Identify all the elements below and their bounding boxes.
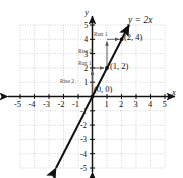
x-tick-label--2: -2 (58, 100, 65, 109)
point-origin (91, 95, 95, 99)
x-tick-label--1: -1 (72, 100, 79, 109)
y-tick-label-1: 1 (84, 78, 88, 87)
point-label-1-2: (1, 2) (110, 62, 128, 71)
y-tick-label--3: -3 (80, 135, 87, 144)
graph-canvas: y x y = 2x -5 -4 -3 -2 -1 1 2 3 4 5 5 4 … (0, 0, 183, 178)
point-label-2-4: (2, 4) (124, 33, 142, 42)
run-upper-label: Run 1 (94, 32, 108, 38)
y-tick-label-4: 4 (84, 35, 88, 44)
x-tick-label-2: 2 (119, 100, 123, 109)
x-tick-label-4: 4 (148, 100, 152, 109)
equation-label: y = 2x (128, 16, 152, 26)
y-tick-label--5: -5 (80, 164, 87, 173)
y-axis-label: y (85, 8, 89, 17)
coordinate-plane-svg (0, 0, 183, 178)
y-tick-label-5: 5 (84, 21, 88, 30)
x-tick-label-5: 5 (163, 100, 167, 109)
x-axis-label: x (172, 88, 176, 97)
rise-upper-label: Rise 2 (78, 49, 92, 55)
point-2-4 (120, 37, 124, 41)
x-tick-label--4: -4 (29, 100, 36, 109)
x-tick-label-3: 3 (134, 100, 138, 109)
run-lower-label: Run 1 (78, 61, 92, 67)
x-tick-label-1: 1 (105, 100, 109, 109)
x-tick-label--3: -3 (43, 100, 50, 109)
point-label-origin: (0, 0) (94, 85, 112, 94)
y-tick-label--2: -2 (80, 121, 87, 130)
rise-lower-label: Rise 2 (60, 79, 74, 85)
x-tick-label--5: -5 (14, 100, 21, 109)
y-tick-label--4: -4 (80, 150, 87, 159)
point-1-2 (105, 66, 109, 70)
y-tick-label--1: -1 (80, 107, 87, 116)
